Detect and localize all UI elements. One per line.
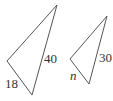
large-triangle-short-side-label: 18 xyxy=(5,76,18,91)
large-triangle-long-side-label: 40 xyxy=(44,51,57,66)
small-triangle-short-side-label: n xyxy=(70,68,77,83)
similar-triangles-diagram: 40 18 30 n xyxy=(0,0,113,101)
small-triangle-long-side-label: 30 xyxy=(99,50,112,65)
